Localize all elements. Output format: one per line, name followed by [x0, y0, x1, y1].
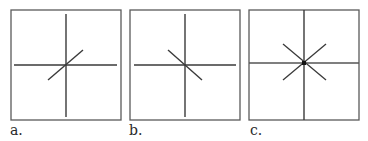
panel-c-center-dot — [302, 61, 306, 65]
panel-b — [130, 10, 240, 120]
panel-a — [11, 10, 121, 120]
three-panel-diagram: a. b. c. — [0, 0, 368, 141]
panel-a-label: a. — [10, 123, 23, 137]
panel-b-label: b. — [129, 123, 142, 137]
diagram-canvas — [0, 0, 368, 141]
panel-c — [249, 10, 359, 120]
panel-c-label: c. — [250, 123, 262, 137]
